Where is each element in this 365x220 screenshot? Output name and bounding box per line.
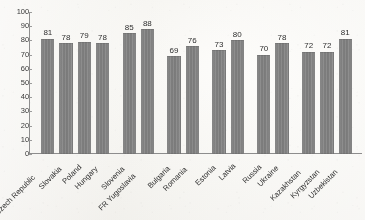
bar-rect	[339, 39, 352, 154]
bar-rect	[231, 40, 244, 154]
y-tick-label-80: 80	[5, 36, 29, 44]
y-tick-label-0: 0	[5, 150, 29, 158]
bar-romania[interactable]: 76	[186, 12, 199, 154]
bar-value-label: 78	[89, 34, 115, 42]
bar-rect	[78, 42, 91, 154]
bar-uzbekistan[interactable]: 81	[339, 12, 352, 154]
bar-value-label: 70	[251, 45, 277, 53]
bar-value-label: 69	[161, 47, 187, 55]
y-tick-label-30: 30	[5, 107, 29, 115]
category-label-text: Estonia	[194, 164, 217, 187]
bar-rect	[320, 52, 333, 154]
bar-rect	[186, 46, 199, 154]
bar-value-label: 76	[179, 37, 205, 45]
bar-value-label: 81	[332, 29, 358, 37]
bar-fr-yugoslavia[interactable]: 88	[141, 12, 154, 154]
bar-rect	[167, 56, 180, 154]
y-tick-label-10: 10	[5, 136, 29, 144]
bar-bulgaria[interactable]: 69	[167, 12, 180, 154]
bar-rect	[96, 43, 109, 154]
bar-value-label: 73	[206, 41, 232, 49]
bar-value-label: 78	[269, 34, 295, 42]
bar-rect	[41, 39, 54, 154]
y-tick-label-60: 60	[5, 65, 29, 73]
x-axis-category-labels: Czech RepublicSlovakiaPolandHungarySlove…	[29, 155, 362, 220]
bar-rect	[141, 29, 154, 154]
bar-latvia[interactable]: 80	[231, 12, 244, 154]
bar-rect	[275, 43, 288, 154]
bar-slovenia[interactable]: 85	[123, 12, 136, 154]
scanned-chart-page: 0102030405060708090100 81787978858869767…	[0, 0, 365, 220]
bar-ukraine[interactable]: 78	[275, 12, 288, 154]
y-tick-label-70: 70	[5, 51, 29, 59]
y-tick-label-90: 90	[5, 22, 29, 30]
y-tick-label-50: 50	[5, 79, 29, 87]
bar-rect	[302, 52, 315, 154]
bar-value-label: 72	[314, 42, 340, 50]
bar-rect	[257, 55, 270, 154]
bar-hungary[interactable]: 78	[96, 12, 109, 154]
bar-rect	[212, 50, 225, 154]
bar-rect	[123, 33, 136, 154]
y-tick-label-20: 20	[5, 122, 29, 130]
y-tick-label-100: 100	[5, 8, 29, 16]
category-label-text: Czech Republic	[0, 174, 36, 217]
y-tick-label-40: 40	[5, 93, 29, 101]
bar-value-label: 80	[224, 31, 250, 39]
bar-series: 817879788588697673807078727281	[29, 12, 362, 154]
bar-kazakhstan[interactable]: 72	[302, 12, 315, 154]
bar-chart: 0102030405060708090100 81787978858869767…	[0, 0, 365, 220]
bar-value-label: 88	[134, 20, 160, 28]
